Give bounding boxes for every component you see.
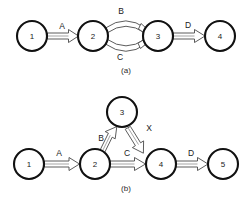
- edge-b-D: [176, 158, 208, 171]
- node-b-1[interactable]: 1: [14, 149, 44, 179]
- edge-b-C: [110, 158, 146, 171]
- subfigure-a: A B C D 1: [17, 6, 235, 75]
- node-label: 1: [30, 32, 35, 41]
- edge-label-b-B: B: [98, 133, 104, 143]
- node-label: 3: [120, 108, 125, 117]
- figure-root: A B C D 1: [0, 0, 252, 199]
- node-a-2[interactable]: 2: [78, 21, 108, 51]
- node-a-4[interactable]: 4: [205, 21, 235, 51]
- node-a-3[interactable]: 3: [143, 21, 173, 51]
- edge-a-D: [173, 30, 205, 43]
- node-label: 2: [93, 160, 98, 169]
- node-label: 2: [91, 32, 96, 41]
- node-b-2[interactable]: 2: [80, 149, 110, 179]
- node-label: 4: [159, 160, 164, 169]
- node-label: 5: [221, 160, 226, 169]
- subfigure-b: A B X C D: [14, 97, 238, 193]
- subfigure-caption-a: (a): [121, 66, 131, 75]
- edge-label-b-X: X: [146, 123, 152, 133]
- edge-label-a-D: D: [185, 20, 191, 30]
- node-a-1[interactable]: 1: [17, 21, 47, 51]
- node-label: 4: [218, 32, 223, 41]
- node-label: 1: [27, 160, 32, 169]
- edge-label-a-C: C: [117, 52, 123, 62]
- edge-label-b-C: C: [124, 148, 130, 158]
- node-b-4[interactable]: 4: [146, 149, 176, 179]
- node-label: 3: [156, 32, 161, 41]
- graph-canvas: A B C D 1: [0, 0, 252, 199]
- edge-a-A: [48, 30, 79, 43]
- edge-label-b-D: D: [188, 148, 194, 158]
- edge-b-A: [45, 158, 80, 171]
- edge-label-a-A: A: [59, 21, 65, 31]
- edge-label-b-A: A: [56, 148, 62, 158]
- subfigure-caption-b: (b): [121, 184, 131, 193]
- node-b-3[interactable]: 3: [107, 97, 137, 127]
- node-b-5[interactable]: 5: [208, 149, 238, 179]
- edge-label-a-B: B: [118, 6, 124, 16]
